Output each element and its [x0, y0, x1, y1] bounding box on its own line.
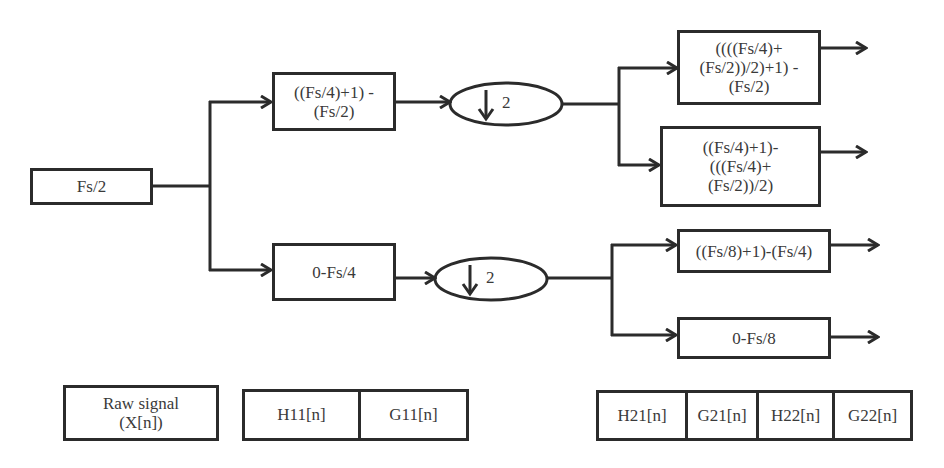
level2-ll-label: 0-Fs/8 — [732, 329, 775, 348]
downsample-top-factor: 2 — [502, 93, 511, 113]
level2-hh-line-2: (Fs/2))/2)+1) - — [700, 58, 799, 77]
root-band-box: Fs/2 — [30, 168, 153, 205]
level1-high-line-1: ((Fs/4)+1) - — [294, 83, 374, 102]
legend-cell-h21: H21[n] — [599, 393, 685, 438]
level2-hl-line-3: (Fs/2))/2) — [708, 176, 773, 195]
legend-raw-line-1: Raw signal — [103, 394, 179, 413]
legend-raw-line-2: (X[n]) — [119, 413, 162, 432]
downsample-bottom-factor: 2 — [486, 268, 495, 288]
legend-cell-g11: G11[n] — [358, 392, 466, 438]
legend-level1-coefficients: H11[n] G11[n] — [242, 389, 469, 441]
level1-high-line-2: (Fs/2) — [314, 102, 355, 121]
legend-cell-g21: G21[n] — [685, 393, 756, 438]
level2-lh-band-box: ((Fs/8)+1)-(Fs/4) — [677, 229, 831, 273]
level2-hh-line-1: ((((Fs/4)+ — [715, 39, 782, 58]
level2-lh-label: ((Fs/8)+1)-(Fs/4) — [696, 242, 812, 261]
level2-hl-line-1: ((Fs/4)+1)- — [703, 138, 779, 157]
level2-hl-line-2: (((Fs/4)+ — [710, 157, 772, 176]
root-band-label: Fs/2 — [77, 177, 106, 196]
level1-low-label: 0-Fs/4 — [312, 263, 355, 282]
legend-cell-h22: H22[n] — [756, 393, 832, 438]
legend-raw-signal-box: Raw signal (X[n]) — [63, 385, 219, 441]
level2-ll-band-box: 0-Fs/8 — [677, 317, 831, 359]
level1-high-band-box: ((Fs/4)+1) - (Fs/2) — [272, 72, 396, 131]
legend-cell-g22: G22[n] — [832, 393, 910, 438]
level2-hh-line-3: (Fs/2) — [729, 77, 770, 96]
level1-low-band-box: 0-Fs/4 — [272, 243, 396, 301]
level2-hh-band-box: ((((Fs/4)+ (Fs/2))/2)+1) - (Fs/2) — [677, 30, 821, 105]
legend-cell-h11: H11[n] — [245, 392, 358, 438]
level2-hl-band-box: ((Fs/4)+1)- (((Fs/4)+ (Fs/2))/2) — [660, 126, 821, 207]
legend-level2-coefficients: H21[n] G21[n] H22[n] G22[n] — [596, 390, 913, 441]
